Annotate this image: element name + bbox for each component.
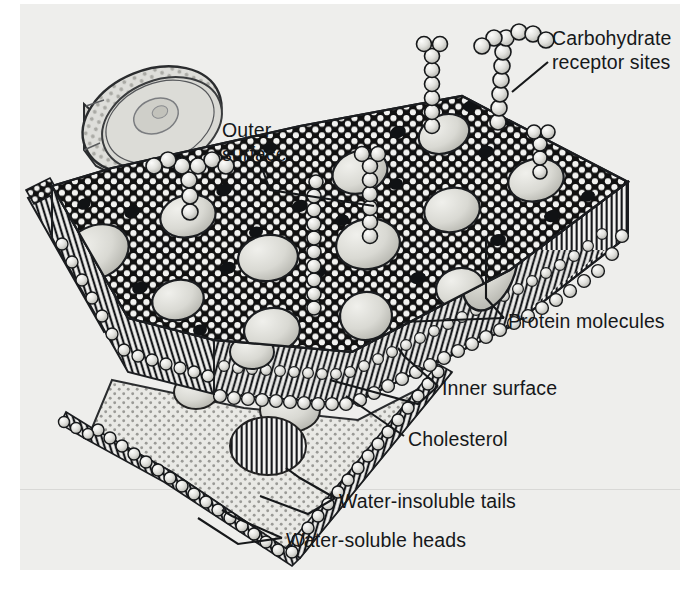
label-inner-surface: Inner surface — [442, 377, 557, 400]
label-protein-molecules: Protein molecules — [508, 310, 665, 333]
label-water-insoluble-tails: Water-insoluble tails — [339, 490, 516, 513]
label-carbohydrate-receptor-sites: Carbohydrate receptor sites — [552, 26, 698, 74]
label-cholesterol: Cholesterol — [408, 428, 508, 451]
label-outer-surface: Outer surface — [222, 118, 332, 166]
label-line-1: Carbohydrate — [552, 27, 671, 49]
label-line-1: Outer — [222, 119, 271, 141]
figure-canvas: Carbohydrate receptor sites Outer surfac… — [0, 0, 698, 599]
label-line-2: receptor sites — [552, 51, 670, 73]
label-line-2: surface — [222, 143, 287, 165]
leader-carbohydrate — [512, 62, 548, 92]
label-water-soluble-heads: Water-soluble heads — [286, 529, 466, 552]
